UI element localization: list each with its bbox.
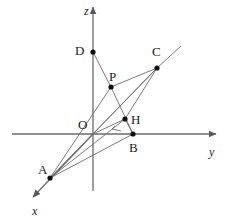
figure-canvas xyxy=(0,0,229,219)
segment-O-C xyxy=(93,68,157,134)
point-label-B: B xyxy=(129,141,138,154)
geometry-figure: OABCDPHxyz xyxy=(0,0,229,219)
point-label-A: A xyxy=(38,163,47,176)
axis-label-z: z xyxy=(84,5,89,17)
axis-label-y: y xyxy=(209,146,214,158)
point-label-D: D xyxy=(75,44,84,57)
point-label-H: H xyxy=(131,113,140,126)
segment-H-C xyxy=(125,68,157,119)
point-dot-B xyxy=(130,131,135,136)
segments-group xyxy=(50,52,157,178)
segment-A-B xyxy=(50,134,133,178)
point-label-C: C xyxy=(152,45,161,58)
segment-A-P xyxy=(50,87,111,178)
point-dot-H xyxy=(122,116,127,121)
points-group xyxy=(47,49,159,180)
segment-P-C xyxy=(111,68,157,87)
point-dot-C xyxy=(154,65,159,70)
point-label-O: O xyxy=(78,118,87,131)
point-dot-P xyxy=(108,84,113,89)
axis-label-x: x xyxy=(32,205,37,217)
point-dot-D xyxy=(90,49,95,54)
point-label-P: P xyxy=(109,70,116,83)
point-dot-A xyxy=(47,175,52,180)
